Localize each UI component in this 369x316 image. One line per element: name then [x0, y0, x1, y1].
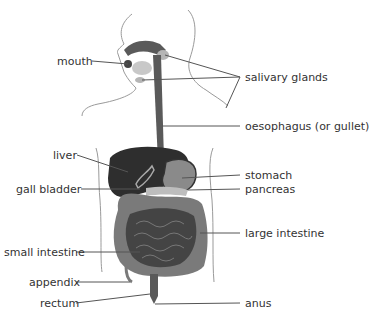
oesophagus [153, 55, 164, 162]
head-back-outline [188, 10, 228, 106]
label-mouth: mouth [57, 55, 93, 68]
label-rectum: rectum [40, 297, 79, 310]
label-oesophagus: oesophagus (or gullet) [245, 120, 369, 133]
label-large-intestine: large intestine [245, 227, 324, 240]
label-small-intestine: small intestine [4, 246, 85, 259]
torso-left-outline [96, 148, 102, 272]
label-stomach: stomach [245, 169, 292, 182]
rectum [150, 274, 158, 304]
label-anus: anus [245, 297, 271, 310]
label-liver: liver [53, 149, 77, 162]
label-salivary-glands: salivary glands [245, 71, 328, 84]
tongue [132, 61, 152, 75]
label-appendix: appendix [29, 276, 80, 289]
torso-right-outline [210, 148, 214, 282]
label-gall-bladder: gall bladder [16, 183, 81, 196]
label-pancreas: pancreas [245, 183, 295, 196]
